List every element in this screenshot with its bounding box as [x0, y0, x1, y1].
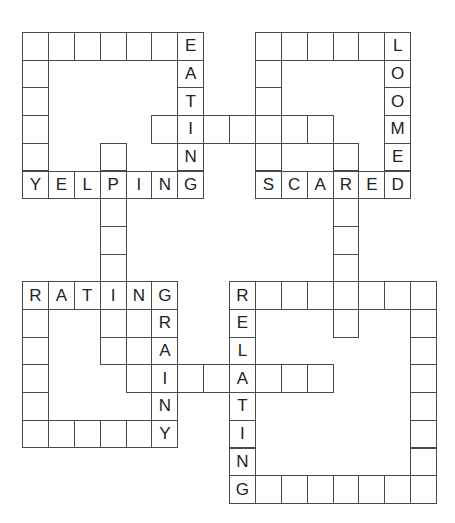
grid-cell-empty[interactable] — [333, 226, 360, 255]
grid-cell-empty[interactable] — [74, 420, 101, 449]
grid-cell-empty[interactable] — [151, 32, 178, 61]
grid-cell-letter[interactable]: N — [126, 281, 153, 310]
grid-cell-empty[interactable] — [281, 364, 308, 393]
grid-cell-empty[interactable] — [100, 32, 127, 61]
grid-cell-empty[interactable] — [22, 60, 49, 89]
grid-cell-empty[interactable] — [126, 364, 153, 393]
grid-cell-letter[interactable]: O — [384, 87, 411, 116]
grid-cell-letter[interactable]: E — [177, 32, 204, 61]
grid-cell-letter[interactable]: I — [177, 115, 204, 144]
grid-cell-empty[interactable] — [410, 448, 437, 477]
grid-cell-empty[interactable] — [281, 475, 308, 504]
grid-cell-letter[interactable]: R — [229, 281, 256, 310]
grid-cell-empty[interactable] — [255, 281, 282, 310]
grid-cell-empty[interactable] — [22, 143, 49, 172]
grid-cell-empty[interactable] — [255, 475, 282, 504]
grid-cell-letter[interactable]: L — [74, 171, 101, 200]
grid-cell-empty[interactable] — [255, 364, 282, 393]
grid-cell-empty[interactable] — [281, 115, 308, 144]
grid-cell-empty[interactable] — [229, 115, 256, 144]
grid-cell-empty[interactable] — [100, 337, 127, 366]
grid-cell-empty[interactable] — [333, 281, 360, 310]
grid-cell-empty[interactable] — [22, 364, 49, 393]
grid-cell-letter[interactable]: S — [255, 171, 282, 200]
grid-cell-letter[interactable]: D — [384, 171, 411, 200]
grid-cell-empty[interactable] — [307, 115, 334, 144]
grid-cell-letter[interactable]: N — [151, 171, 178, 200]
grid-cell-letter[interactable]: E — [384, 143, 411, 172]
grid-cell-empty[interactable] — [74, 32, 101, 61]
grid-cell-letter[interactable]: R — [151, 309, 178, 338]
grid-cell-empty[interactable] — [100, 198, 127, 227]
grid-cell-empty[interactable] — [307, 281, 334, 310]
grid-cell-letter[interactable]: L — [229, 337, 256, 366]
grid-cell-letter[interactable]: I — [229, 420, 256, 449]
grid-cell-empty[interactable] — [281, 32, 308, 61]
grid-cell-letter[interactable]: I — [100, 281, 127, 310]
grid-cell-letter[interactable]: G — [177, 171, 204, 200]
grid-cell-empty[interactable] — [307, 475, 334, 504]
grid-cell-letter[interactable]: N — [177, 143, 204, 172]
grid-cell-letter[interactable]: C — [281, 171, 308, 200]
grid-cell-letter[interactable]: E — [358, 171, 385, 200]
grid-cell-empty[interactable] — [333, 475, 360, 504]
grid-cell-empty[interactable] — [100, 309, 127, 338]
grid-cell-letter[interactable]: T — [74, 281, 101, 310]
grid-cell-empty[interactable] — [410, 420, 437, 449]
grid-cell-empty[interactable] — [358, 32, 385, 61]
grid-cell-empty[interactable] — [22, 309, 49, 338]
grid-cell-empty[interactable] — [410, 364, 437, 393]
grid-cell-empty[interactable] — [410, 337, 437, 366]
grid-cell-empty[interactable] — [333, 198, 360, 227]
grid-cell-empty[interactable] — [100, 420, 127, 449]
grid-cell-empty[interactable] — [126, 309, 153, 338]
grid-cell-empty[interactable] — [22, 115, 49, 144]
grid-cell-letter[interactable]: I — [151, 364, 178, 393]
grid-cell-empty[interactable] — [22, 392, 49, 421]
grid-cell-letter[interactable]: Y — [151, 420, 178, 449]
grid-cell-letter[interactable]: R — [333, 171, 360, 200]
grid-cell-letter[interactable]: E — [229, 309, 256, 338]
grid-cell-letter[interactable]: M — [384, 115, 411, 144]
grid-cell-letter[interactable]: A — [151, 337, 178, 366]
grid-cell-empty[interactable] — [358, 475, 385, 504]
grid-cell-letter[interactable]: P — [100, 171, 127, 200]
grid-cell-empty[interactable] — [281, 281, 308, 310]
grid-cell-letter[interactable]: R — [22, 281, 49, 310]
grid-cell-empty[interactable] — [48, 420, 75, 449]
grid-cell-letter[interactable]: G — [151, 281, 178, 310]
grid-cell-letter[interactable]: N — [229, 448, 256, 477]
grid-cell-empty[interactable] — [410, 309, 437, 338]
grid-cell-empty[interactable] — [22, 337, 49, 366]
grid-cell-letter[interactable]: N — [151, 392, 178, 421]
grid-cell-empty[interactable] — [410, 392, 437, 421]
grid-cell-empty[interactable] — [126, 32, 153, 61]
grid-cell-empty[interactable] — [307, 32, 334, 61]
grid-cell-empty[interactable] — [203, 364, 230, 393]
grid-cell-empty[interactable] — [358, 281, 385, 310]
grid-cell-letter[interactable]: O — [384, 60, 411, 89]
grid-cell-empty[interactable] — [100, 226, 127, 255]
grid-cell-empty[interactable] — [384, 281, 411, 310]
grid-cell-letter[interactable]: T — [229, 392, 256, 421]
grid-cell-empty[interactable] — [126, 337, 153, 366]
grid-cell-letter[interactable]: T — [177, 87, 204, 116]
grid-cell-empty[interactable] — [22, 32, 49, 61]
grid-cell-letter[interactable]: A — [307, 171, 334, 200]
grid-cell-empty[interactable] — [48, 32, 75, 61]
grid-cell-empty[interactable] — [100, 254, 127, 283]
grid-cell-letter[interactable]: E — [48, 171, 75, 200]
grid-cell-letter[interactable]: A — [177, 60, 204, 89]
grid-cell-empty[interactable] — [22, 87, 49, 116]
grid-cell-empty[interactable] — [410, 475, 437, 504]
grid-cell-empty[interactable] — [203, 115, 230, 144]
grid-cell-empty[interactable] — [22, 420, 49, 449]
grid-cell-letter[interactable]: I — [126, 171, 153, 200]
grid-cell-empty[interactable] — [333, 309, 360, 338]
grid-cell-empty[interactable] — [255, 115, 282, 144]
grid-cell-empty[interactable] — [307, 364, 334, 393]
grid-cell-letter[interactable]: G — [229, 475, 256, 504]
grid-cell-empty[interactable] — [410, 281, 437, 310]
grid-cell-empty[interactable] — [333, 32, 360, 61]
grid-cell-empty[interactable] — [100, 143, 127, 172]
